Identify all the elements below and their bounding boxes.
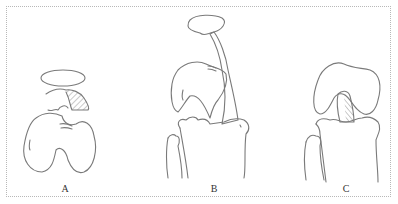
femur-mark-b	[208, 66, 216, 71]
panel-c	[305, 63, 380, 182]
panel-label-b: B	[204, 183, 224, 194]
joint-line	[48, 106, 68, 111]
knee-diagram-figure	[0, 0, 398, 204]
hatched-ligament-c-right	[344, 93, 354, 122]
tibia-mark-b	[240, 125, 241, 127]
tibia-c-left	[316, 124, 326, 182]
panel-b	[167, 15, 249, 178]
condyle-mark-2	[29, 140, 30, 150]
patella-elevated	[188, 15, 224, 34]
fibula-c-right	[306, 135, 324, 180]
panel-a	[24, 70, 96, 173]
fibula-b-left	[167, 138, 169, 178]
hatched-ligament-b	[210, 32, 238, 124]
tibia-c-right	[316, 117, 380, 182]
femur-b	[171, 62, 226, 118]
fibula-b-right	[168, 135, 182, 178]
femur-mark-b-2	[182, 90, 183, 100]
panel-label-c: C	[336, 183, 356, 194]
fibula-c-left	[305, 142, 307, 180]
tibia-b-right	[178, 117, 248, 178]
femoral-condyles	[24, 113, 96, 172]
panel-label-a: A	[55, 183, 75, 194]
patella-shape	[41, 70, 85, 86]
